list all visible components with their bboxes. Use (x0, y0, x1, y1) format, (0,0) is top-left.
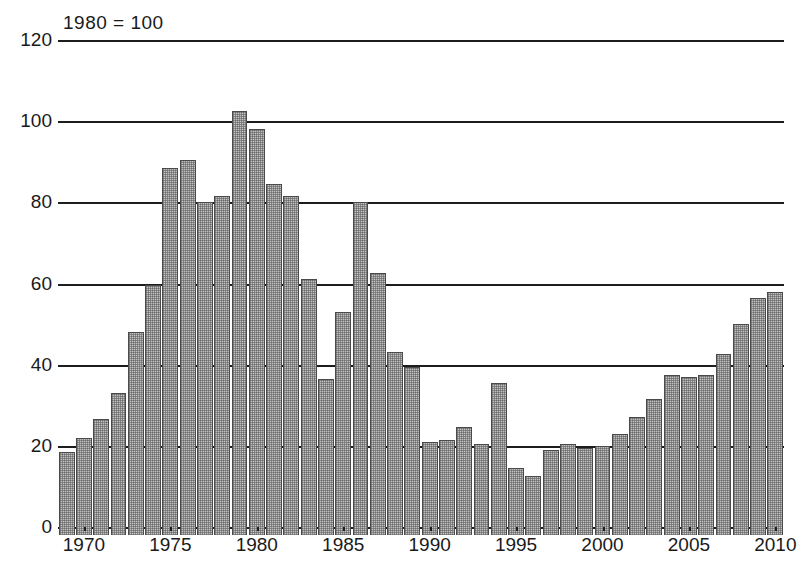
x-axis-tick-label-1980: 1980 (236, 534, 278, 556)
x-axis-tick-mark-1985 (343, 527, 345, 531)
bar-1997 (543, 450, 559, 535)
y-axis-tick-label-120: 120 (8, 29, 52, 51)
bar-1999 (577, 448, 593, 535)
bar-series (58, 48, 784, 535)
bar-1969 (59, 452, 75, 535)
bar-2001 (612, 434, 628, 535)
bar-1993 (474, 444, 490, 535)
chart-annotation: 1980 = 100 (63, 12, 164, 34)
bar-1988 (387, 352, 403, 535)
x-axis-tick-mark-2005 (689, 527, 691, 531)
bar-2005 (681, 377, 697, 535)
x-axis-tick-label-2010: 2010 (754, 534, 796, 556)
bar-1989 (404, 367, 420, 535)
bar-1971 (93, 419, 109, 535)
bar-1992 (456, 427, 472, 535)
bar-1982 (283, 196, 299, 535)
x-axis-tick-label-1995: 1995 (495, 534, 537, 556)
x-axis-tick-label-1990: 1990 (409, 534, 451, 556)
bar-2000 (595, 446, 611, 535)
x-axis-tick-mark-2010 (775, 527, 777, 531)
bar-1978 (214, 196, 230, 535)
x-axis-tick-label-2000: 2000 (581, 534, 623, 556)
bar-chart: 1980 = 100 020406080100120 1970197519801… (0, 0, 808, 567)
x-axis: 197019751980198519901995200020052010 (58, 527, 784, 567)
bar-1972 (111, 393, 127, 535)
y-axis-tick-label-0: 0 (8, 516, 52, 538)
bar-1994 (491, 383, 507, 535)
bar-1995 (508, 468, 524, 535)
bar-1976 (180, 160, 196, 535)
x-axis-tick-label-1975: 1975 (149, 534, 191, 556)
bar-1981 (266, 184, 282, 535)
bar-2010 (767, 292, 783, 536)
x-axis-tick-mark-1990 (430, 527, 432, 531)
bar-1983 (301, 279, 317, 535)
gridline-120 (58, 40, 784, 42)
bar-2002 (629, 417, 645, 535)
bar-1979 (232, 111, 248, 535)
bar-2004 (664, 375, 680, 535)
x-axis-tick-label-1970: 1970 (63, 534, 105, 556)
x-axis-tick-mark-2000 (603, 527, 605, 531)
y-axis-tick-label-100: 100 (8, 110, 52, 132)
plot-area (58, 40, 784, 535)
bar-1977 (197, 202, 213, 535)
y-axis-tick-label-80: 80 (8, 191, 52, 213)
x-axis-tick-label-2005: 2005 (668, 534, 710, 556)
x-axis-tick-mark-1975 (170, 527, 172, 531)
bar-1984 (318, 379, 334, 535)
bar-2009 (750, 298, 766, 535)
bar-2006 (698, 375, 714, 535)
x-axis-tick-mark-1980 (257, 527, 259, 531)
bar-2008 (733, 324, 749, 535)
bar-1985 (335, 312, 351, 535)
y-axis-labels: 020406080100120 (0, 40, 52, 535)
bar-1998 (560, 444, 576, 535)
bar-1986 (353, 202, 369, 535)
x-axis-tick-mark-1970 (84, 527, 86, 531)
bar-1975 (162, 168, 178, 535)
bar-1973 (128, 332, 144, 535)
x-axis-tick-mark-1995 (516, 527, 518, 531)
bar-1980 (249, 129, 265, 535)
y-axis-tick-label-20: 20 (8, 435, 52, 457)
bar-1991 (439, 440, 455, 535)
y-axis-tick-label-40: 40 (8, 354, 52, 376)
y-axis-tick-label-60: 60 (8, 273, 52, 295)
bar-1974 (145, 285, 161, 535)
x-axis-tick-label-1985: 1985 (322, 534, 364, 556)
bar-1990 (422, 442, 438, 535)
bar-1970 (76, 438, 92, 535)
bar-1987 (370, 273, 386, 535)
bar-2003 (646, 399, 662, 535)
bar-2007 (716, 354, 732, 535)
